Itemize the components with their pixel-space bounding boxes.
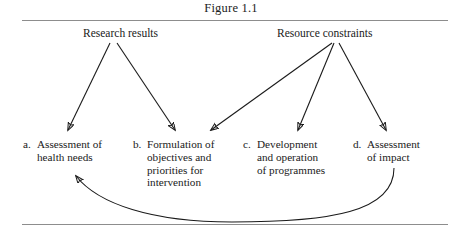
figure-container: Figure 1.1 Research results Resource con…: [0, 0, 462, 240]
source-node-research-results: Research results: [83, 27, 158, 40]
arrow-research-results-to-a: [68, 43, 110, 130]
stage-item-d: d. Assessment of impact: [353, 138, 453, 164]
arrow-resource-constraints-to-d: [339, 43, 386, 130]
stage-item-a: a. Assessment of health needs: [23, 138, 127, 164]
stage-item-b: b. Formulation of objectives and priorit…: [133, 138, 233, 189]
stage-marker-d: d.: [353, 138, 367, 151]
stage-label-d: Assessment of impact: [367, 138, 420, 164]
top-divider-rule: [22, 20, 448, 21]
stage-item-c: c. Development and operation of programm…: [243, 138, 351, 176]
stage-marker-c: c.: [243, 138, 257, 151]
arrow-research-results-to-b: [117, 43, 175, 130]
arrow-resource-constraints-to-b: [211, 43, 332, 130]
bottom-divider-rule: [22, 224, 448, 225]
arrow-resource-constraints-to-c: [298, 43, 334, 130]
stage-marker-b: b.: [133, 138, 147, 151]
figure-title: Figure 1.1: [0, 1, 462, 16]
stage-marker-a: a.: [23, 138, 37, 151]
stage-label-a: Assessment of health needs: [37, 138, 102, 164]
stage-label-c: Development and operation of programmes: [257, 138, 325, 176]
stage-label-b: Formulation of objectives and priorities…: [147, 138, 214, 189]
source-node-resource-constraints: Resource constraints: [277, 27, 373, 40]
arrow-layer: [0, 0, 462, 240]
